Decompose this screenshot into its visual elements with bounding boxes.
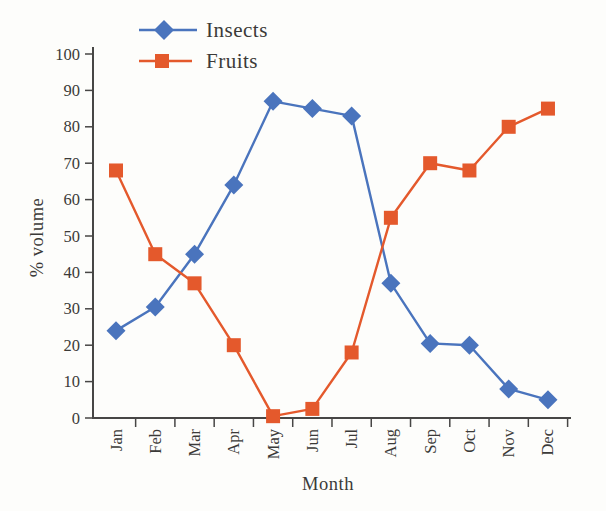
insects-diamond-icon xyxy=(154,20,174,40)
insects-marker xyxy=(264,92,283,111)
x-tick-label: Dec xyxy=(538,429,557,456)
x-tick-label: Feb xyxy=(146,429,165,454)
x-tick-label: Jul xyxy=(342,429,361,449)
insects-marker xyxy=(303,99,322,118)
y-tick-label: 80 xyxy=(64,117,81,136)
x-tick-label: Nov xyxy=(499,428,518,457)
insects-marker xyxy=(107,321,126,340)
y-tick-label: 20 xyxy=(64,336,81,355)
insects-marker xyxy=(342,106,361,125)
fruits-marker xyxy=(345,345,359,359)
fruits-marker xyxy=(502,120,516,134)
insects-marker xyxy=(146,297,165,316)
y-tick-label: 100 xyxy=(55,45,80,64)
y-tick-label: 10 xyxy=(64,372,81,391)
fruits-marker xyxy=(188,276,202,290)
insects-marker xyxy=(224,176,243,195)
fruits-marker xyxy=(148,247,162,261)
insects-marker xyxy=(381,274,400,293)
x-tick-label: May xyxy=(264,428,283,459)
insects-marker xyxy=(538,390,557,409)
legend-label-fruits: Fruits xyxy=(206,51,258,72)
fruits-legend-sample xyxy=(137,48,199,74)
y-tick-label: 50 xyxy=(64,227,81,246)
fruits-marker xyxy=(109,163,123,177)
fruits-line xyxy=(116,109,548,417)
y-tick-label: 90 xyxy=(64,81,81,100)
legend-item-fruits: Fruits xyxy=(137,48,268,74)
fruits-marker xyxy=(423,156,437,170)
y-tick-label: 60 xyxy=(64,190,81,209)
x-tick-label: Apr xyxy=(224,429,243,455)
fruits-marker xyxy=(227,338,241,352)
plot-area: 0102030405060708090100JanFebMarAprMayJun… xyxy=(0,0,606,511)
legend-item-insects: Insects xyxy=(137,17,268,43)
x-tick-label: Jun xyxy=(303,429,322,452)
y-tick-label: 70 xyxy=(64,154,81,173)
fruits-marker xyxy=(305,402,319,416)
x-tick-label: Jan xyxy=(107,429,126,451)
legend-label-insects: Insects xyxy=(206,20,268,41)
x-tick-label: Aug xyxy=(381,429,400,457)
x-tick-label: Oct xyxy=(460,429,479,453)
legend: Insects Fruits xyxy=(137,17,268,79)
y-tick-label: 40 xyxy=(64,263,81,282)
y-axis-title: % volume xyxy=(27,178,48,298)
insects-line xyxy=(116,101,548,399)
x-axis-title: Month xyxy=(278,474,378,495)
y-tick-label: 30 xyxy=(64,299,81,318)
fruits-marker xyxy=(384,211,398,225)
x-tick-label: Mar xyxy=(185,429,204,457)
fruits-square-icon xyxy=(155,54,169,68)
y-tick-label: 0 xyxy=(72,409,80,428)
fruits-marker xyxy=(462,163,476,177)
diet-composition-chart: 0102030405060708090100JanFebMarAprMayJun… xyxy=(0,0,606,511)
insects-legend-sample xyxy=(137,17,199,43)
axes-lines xyxy=(93,47,571,418)
fruits-marker xyxy=(266,409,280,423)
x-tick-label: Sep xyxy=(421,429,440,454)
insects-marker xyxy=(185,245,204,264)
insects-marker xyxy=(421,334,440,353)
fruits-marker xyxy=(541,102,555,116)
